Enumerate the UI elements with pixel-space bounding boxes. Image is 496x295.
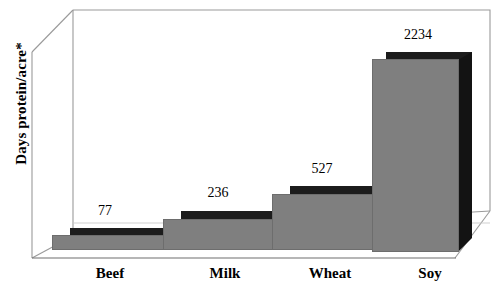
bar-wheat-front	[272, 194, 373, 250]
y-axis-title: Days protein/acre*	[13, 19, 30, 189]
bar-value-label-milk: 236	[188, 185, 248, 201]
bar-value-label-wheat: 527	[292, 161, 352, 177]
depth-diagonal-top-left	[32, 10, 73, 52]
category-label-wheat: Wheat	[290, 265, 370, 282]
bar-soy-front	[372, 59, 459, 252]
bar-value-label-soy: 2234	[388, 27, 448, 43]
chart-figure: Days protein/acre* 77 Beef 236 Milk 527 …	[0, 0, 496, 295]
bar-soy	[372, 52, 472, 252]
category-label-beef: Beef	[70, 265, 150, 282]
bar-soy-side	[458, 52, 472, 252]
category-label-soy: Soy	[390, 265, 470, 282]
category-label-milk: Milk	[185, 265, 265, 282]
bar-value-label-beef: 77	[75, 203, 135, 219]
